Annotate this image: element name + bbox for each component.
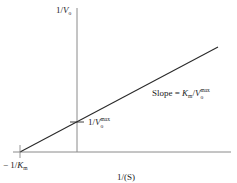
- slope-label-prefix: Slope =: [152, 88, 182, 98]
- slope-den-sup: max: [200, 87, 209, 93]
- y-intercept-prefix: 1/: [88, 117, 95, 127]
- x-intercept-label: − 1/Km: [3, 160, 28, 173]
- slope-den-sub: o: [200, 94, 203, 100]
- slope-label: Slope = Km/Vmaxo: [152, 88, 210, 101]
- x-intercept-prefix: − 1/: [3, 160, 17, 170]
- x-intercept-sub: m: [23, 165, 27, 171]
- y-intercept-label: 1/Vmaxo: [88, 117, 111, 127]
- y-axis-label: 1/Vo: [56, 5, 71, 18]
- y-intercept-sub: o: [101, 123, 104, 129]
- y-intercept-supsub: maxo: [101, 117, 111, 127]
- x-axis-label: 1/(S): [117, 172, 135, 182]
- y-intercept-sup: max: [101, 116, 110, 122]
- y-axis-label-prefix: 1/: [56, 5, 63, 15]
- y-axis-label-sub: o: [69, 10, 72, 16]
- slope-den-supsub: maxo: [200, 88, 210, 98]
